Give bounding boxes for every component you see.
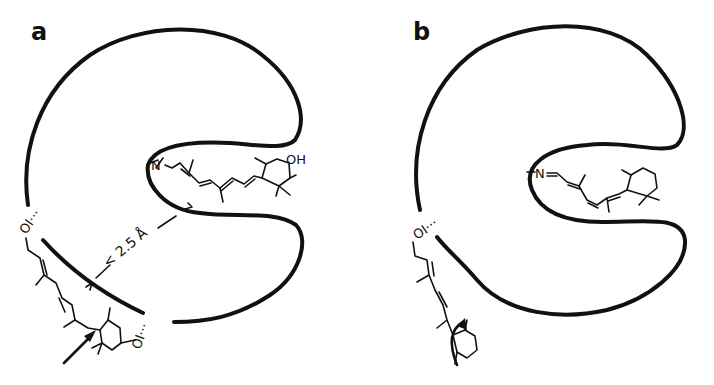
panel-a: a N OH < 2.5 Å OI··· [0, 0, 357, 385]
rotation-arrow [452, 322, 463, 365]
hbond-group-top: OI··· [16, 206, 43, 236]
protein-pocket-outline [416, 26, 685, 314]
bound-chromophore-b: N [527, 166, 659, 212]
bound-chromophore-a: N OH [150, 152, 306, 202]
outside-retinoid-a: OI··· OI··· [16, 206, 152, 363]
hbond-group-bottom: OI··· [129, 321, 152, 351]
n-label: N [151, 158, 161, 173]
oh-label: OH [286, 152, 306, 167]
distance-label: < 2.5 Å [100, 224, 151, 270]
n-label-b: N [535, 166, 545, 181]
panel-b-drawing: N OI··· [357, 0, 714, 385]
panel-b: b N OI··· [357, 0, 714, 385]
panel-a-drawing: N OH < 2.5 Å OI··· OI··· [0, 0, 357, 385]
distance-annotation: < 2.5 Å [86, 203, 192, 290]
outside-retinoid-b: OI··· [410, 215, 477, 365]
protein-pocket-outline [26, 29, 302, 322]
